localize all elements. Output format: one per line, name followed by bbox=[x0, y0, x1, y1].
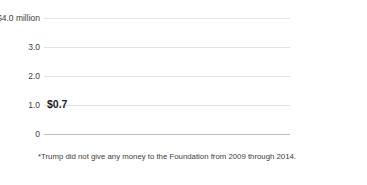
y-tick-label: 1.0 bbox=[28, 101, 40, 110]
plot-area bbox=[44, 18, 290, 134]
x-axis bbox=[44, 136, 290, 150]
y-tick-label: 2.0 bbox=[28, 72, 40, 81]
y-axis: $4.0 million3.02.01.00 bbox=[0, 0, 40, 140]
footnote: *Trump did not give any money to the Fou… bbox=[38, 152, 296, 161]
bars-layer bbox=[44, 18, 290, 134]
y-tick-label: 3.0 bbox=[28, 43, 40, 52]
y-tick-label: 0 bbox=[35, 130, 40, 139]
gridline-0 bbox=[44, 134, 290, 135]
y-tick-label: $4.0 million bbox=[0, 14, 40, 23]
value-callout-0-7: $0.7 bbox=[47, 99, 67, 110]
chart-figure: $4.0 million3.02.01.00 $0.7 *Trump did n… bbox=[0, 0, 367, 185]
